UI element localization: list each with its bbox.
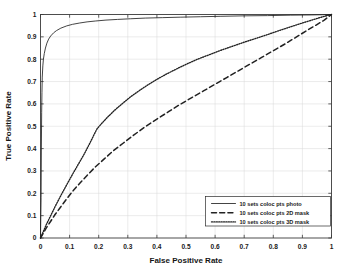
legend-label: 10 sets coloc pts photo [240,201,303,207]
x-tick-label: 0.6 [211,243,220,250]
legend: 10 sets coloc pts photo10 sets coloc pts… [206,197,331,227]
x-tick-label: 0.9 [298,243,307,250]
x-tick-label: 0.2 [94,243,103,250]
x-tick-label: 0.8 [269,243,278,250]
x-tick-label: 0.5 [181,243,190,250]
x-tick-label: 0.3 [123,243,132,250]
legend-label: 10 sets coloc pts 3D mask [240,219,311,225]
y-tick-labels: 00.10.20.30.40.50.60.70.80.91 [27,11,37,242]
y-tick-label: 0.9 [27,33,36,40]
y-tick-label: 0.5 [27,123,36,130]
x-tick-label: 1 [330,243,334,250]
legend-label: 10 sets coloc pts 2D mask [240,210,311,216]
x-tick-label: 0 [39,243,43,250]
x-tick-label: 0.4 [152,243,161,250]
y-tick-label: 1 [33,11,37,18]
y-tick-label: 0.4 [27,145,36,152]
x-tick-label: 0.7 [240,243,249,250]
x-tick-labels: 00.10.20.30.40.50.60.70.80.91 [39,243,334,250]
y-tick-label: 0.6 [27,100,36,107]
y-axis-title: True Positive Rate [4,91,13,161]
y-tick-label: 0.2 [27,190,36,197]
y-tick-label: 0.3 [27,167,36,174]
y-tick-label: 0.8 [27,56,36,63]
y-tick-label: 0 [33,234,37,241]
roc-chart-svg: 00.10.20.30.40.50.60.70.80.91 00.10.20.3… [0,0,343,272]
x-axis-title: False Positive Rate [150,256,223,265]
x-tick-label: 0.1 [65,243,74,250]
roc-chart-figure: 00.10.20.30.40.50.60.70.80.91 00.10.20.3… [0,0,343,272]
y-tick-label: 0.7 [27,78,36,85]
y-tick-label: 0.1 [27,212,36,219]
